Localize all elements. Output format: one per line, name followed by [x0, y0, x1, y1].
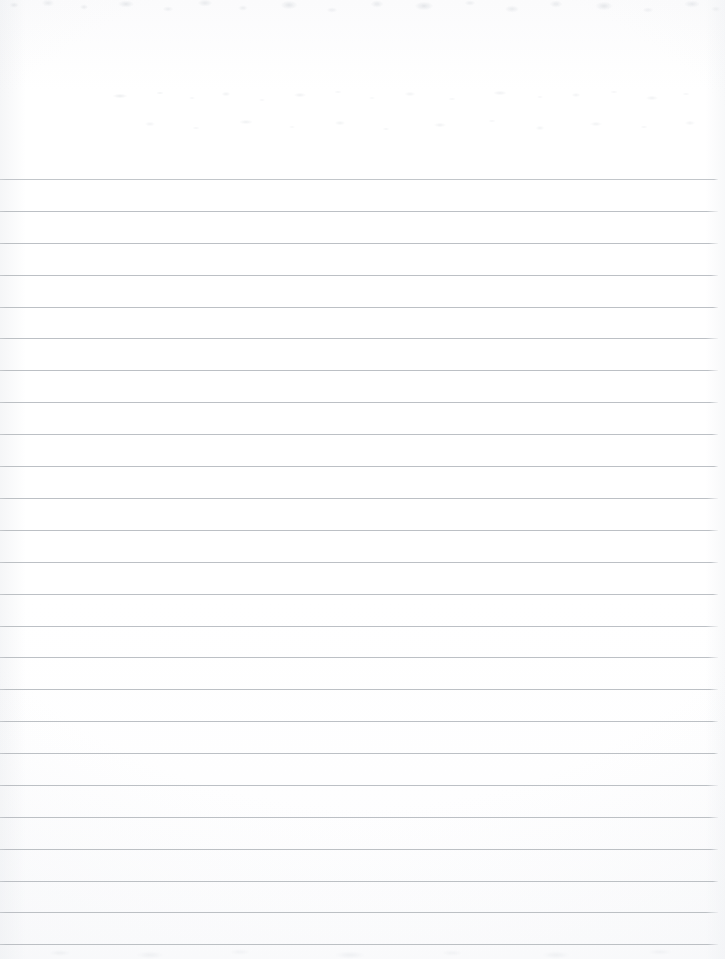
rule-line — [0, 275, 718, 276]
rule-line — [0, 785, 718, 786]
rule-line — [0, 626, 718, 627]
rule-line — [0, 402, 718, 403]
ruled-lines-group — [0, 0, 725, 959]
rule-line — [0, 307, 718, 308]
rule-line — [0, 689, 718, 690]
rule-line — [0, 211, 718, 212]
rule-line — [0, 721, 718, 722]
rule-line — [0, 466, 718, 467]
rule-line — [0, 243, 718, 244]
rule-line — [0, 657, 718, 658]
rule-line — [0, 530, 718, 531]
rule-line — [0, 562, 718, 563]
rule-line — [0, 881, 718, 882]
rule-line — [0, 370, 718, 371]
rule-line — [0, 498, 718, 499]
rule-line — [0, 944, 718, 945]
rule-line — [0, 817, 718, 818]
rule-line — [0, 594, 718, 595]
rule-line — [0, 338, 718, 339]
rule-line — [0, 434, 718, 435]
rule-line — [0, 179, 718, 180]
rule-line — [0, 753, 718, 754]
rule-line — [0, 849, 718, 850]
scanned-page — [0, 0, 725, 959]
rule-line — [0, 912, 718, 913]
